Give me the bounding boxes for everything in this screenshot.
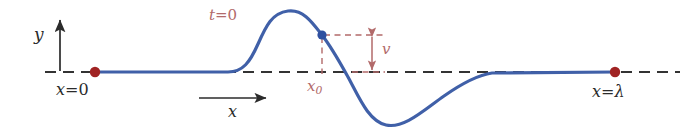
figure-canvas bbox=[0, 0, 692, 137]
wave-curve bbox=[95, 11, 615, 126]
x-origin-variable: x bbox=[56, 80, 65, 99]
origin-endpoint-dot bbox=[90, 67, 100, 77]
time-label: t=0 bbox=[209, 8, 237, 23]
x0-subscript: 0 bbox=[315, 84, 322, 97]
x-origin-label: x=0 bbox=[56, 82, 89, 98]
x-origin-equals: = bbox=[65, 80, 78, 99]
x0-label: x0 bbox=[307, 79, 322, 97]
x-end-label: x=λ bbox=[592, 84, 625, 100]
lambda-endpoint-dot bbox=[610, 67, 620, 77]
x-end-equals: = bbox=[601, 82, 614, 101]
time-equals: = bbox=[215, 6, 228, 24]
x-end-value: λ bbox=[614, 82, 624, 101]
x-end-variable: x bbox=[592, 82, 601, 101]
x-origin-value: 0 bbox=[78, 80, 88, 99]
wave-snapshot-figure: y x x=0 x=λ t=0 x0 v bbox=[0, 0, 692, 137]
wave-point-dot bbox=[317, 30, 326, 39]
x-axis-label: x bbox=[228, 104, 237, 120]
time-value: 0 bbox=[228, 6, 238, 24]
y-axis-label: y bbox=[34, 26, 44, 43]
velocity-label: v bbox=[382, 42, 390, 57]
